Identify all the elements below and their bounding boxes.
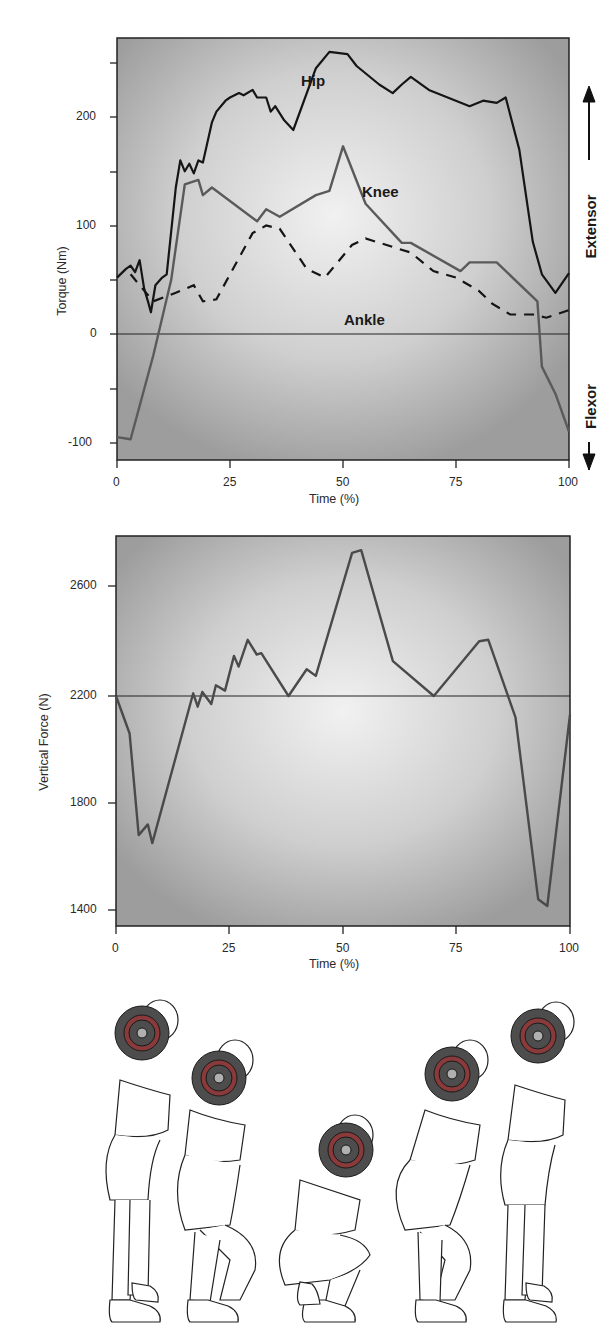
barbell-plate-icon: [341, 1145, 351, 1155]
barbell-plate-icon: [447, 1069, 457, 1079]
barbell-plate-icon: [533, 1031, 543, 1041]
barbell-plate-icon: [137, 1028, 147, 1038]
barbell-plates: [115, 1006, 565, 1177]
squat-sequence-illustration: [0, 0, 611, 1332]
barbell-plate-icon: [214, 1073, 224, 1083]
